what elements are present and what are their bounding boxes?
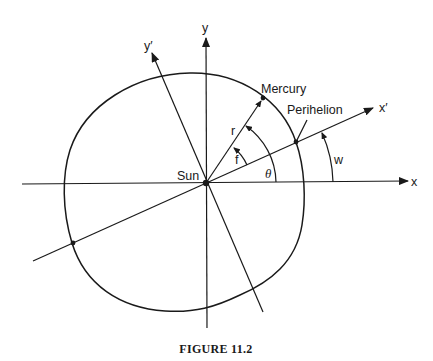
w-label: w <box>333 153 344 167</box>
y-prime-label: y′ <box>144 39 153 53</box>
x-axis <box>22 181 408 184</box>
f-label: f <box>235 153 239 167</box>
figure-caption: FIGURE 11.2 <box>179 342 252 356</box>
sun-label: Sun <box>177 169 199 183</box>
x-prime-axis <box>33 108 373 261</box>
aphelion-dot <box>71 241 76 246</box>
orbit-path <box>64 73 304 311</box>
perihelion-label: Perihelion <box>287 103 343 117</box>
radius-label: r <box>231 124 235 138</box>
perihelion-dot <box>294 140 299 145</box>
theta-label: θ <box>265 166 272 181</box>
mercury-dot <box>261 96 266 101</box>
sun-dot <box>203 180 209 186</box>
y-axis-label: y <box>202 21 209 35</box>
mercury-label: Mercury <box>261 82 307 96</box>
x-axis-label: x <box>411 175 418 189</box>
orbit-diagram: y x y′ x′ Sun Mercury Perihelion r f θ w… <box>0 0 433 361</box>
arc-w <box>322 133 333 182</box>
x-prime-label: x′ <box>379 101 388 115</box>
